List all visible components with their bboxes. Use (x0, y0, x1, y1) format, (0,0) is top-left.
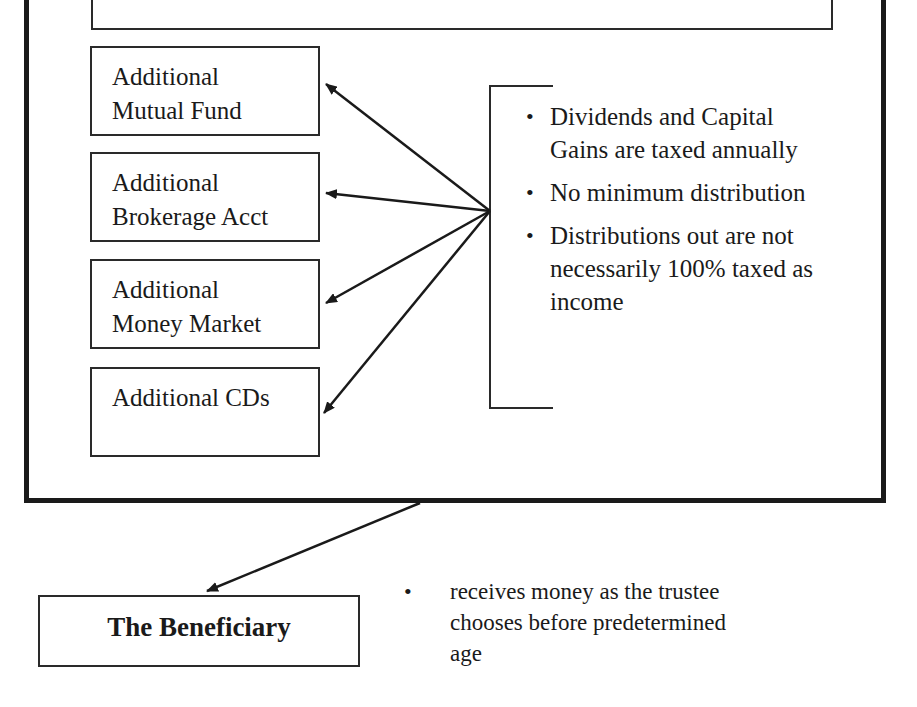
beneficiary-label: The Beneficiary (107, 612, 291, 642)
arrow-to-brokerage-icon (326, 193, 490, 211)
arrow-to-beneficiary-icon (207, 503, 420, 591)
beneficiary-note: receives money as the trustee chooses be… (450, 576, 750, 669)
arrow-to-cds-icon (324, 211, 490, 413)
bullet-icon: • (404, 576, 412, 607)
arrow-to-money-market-icon (326, 211, 490, 303)
arrow-to-mutual-fund-icon (326, 84, 490, 211)
beneficiary-box: The Beneficiary (38, 595, 360, 667)
